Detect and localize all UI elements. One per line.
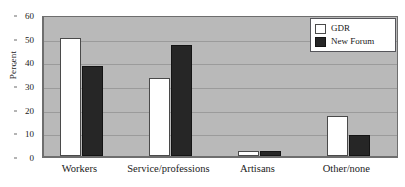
x-axis-tick-label: Service/professions [127,163,209,175]
y-axis-tick-mark [14,134,17,135]
y-axis-tick-mark [14,110,17,111]
legend-item: GDR [315,22,391,35]
y-axis-tick-mark [14,39,17,40]
bar [327,116,348,156]
bar [171,45,192,156]
bar [238,151,259,156]
y-axis-tick-mark [14,87,17,88]
bar [260,151,281,156]
bar [349,135,370,156]
y-axis-tick-label: 30 [14,83,34,92]
legend: GDRNew Forum [310,18,396,52]
y-axis-tick-label: 60 [14,12,34,21]
bar-chart: Percent 0102030405060 GDRNew Forum Worke… [0,0,405,187]
y-axis-tick-labels: 0102030405060 [14,12,34,158]
y-axis-tick-label: 50 [14,35,34,44]
y-axis-tick-label: 0 [14,154,34,163]
bar [60,38,81,156]
legend-swatch [315,37,326,47]
y-axis-tick-mark [14,158,17,159]
y-axis-tick-label: 20 [14,106,34,115]
y-axis-tick-label: 10 [14,130,34,139]
bar [82,66,103,156]
x-axis-tick-label: Workers [62,163,97,175]
bar [149,78,170,156]
y-axis-tick-mark [14,63,17,64]
y-axis-tick-mark [14,16,17,17]
x-axis-tick-labels: WorkersService/professionsArtisansOther/… [42,163,398,183]
legend-item: New Forum [315,35,391,48]
x-axis-tick-label: Other/none [323,163,370,175]
legend-label: New Forum [331,37,374,46]
legend-label: GDR [331,24,350,33]
legend-swatch [315,24,326,34]
x-axis-tick-label: Artisans [240,163,275,175]
y-axis-tick-label: 40 [14,59,34,68]
